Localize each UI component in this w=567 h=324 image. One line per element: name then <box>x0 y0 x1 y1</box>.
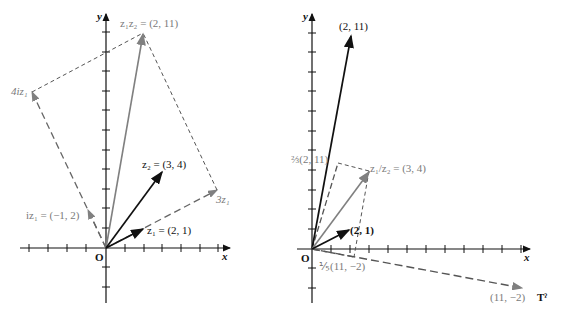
right-2-11-vector <box>312 36 351 249</box>
left-figure: y x O z₁z₂ = (2, 11) 4iz₁ z₂ = (3, 4) 3z… <box>11 10 230 303</box>
left-z1z2-vector <box>106 34 143 248</box>
right-2-11-label: (2, 11) <box>339 20 368 33</box>
right-two-thirds-label: ⅔(2, 11) <box>291 153 329 166</box>
right-quotient-vector <box>312 172 369 249</box>
left-origin-label: O <box>95 251 104 263</box>
left-4iz1-label: 4iz₁ <box>11 85 28 97</box>
left-iz1-label: iz₁ = (−1, 2) <box>26 209 80 222</box>
left-x-label: x <box>221 250 228 262</box>
right-y-label: y <box>301 10 308 22</box>
marginal-mark: Τˀ <box>537 291 547 303</box>
left-z2-vector <box>106 172 162 248</box>
right-origin-label: O <box>301 252 310 264</box>
right-2-1-label: (2, 1) <box>350 224 374 237</box>
right-one-fifth-label: ⅕(11, −2) <box>319 260 365 273</box>
right-conj-label: (11, −2) <box>490 291 525 304</box>
right-parallelogram-right <box>354 171 369 257</box>
diagram-canvas: y x O z₁z₂ = (2, 11) 4iz₁ z₂ = (3, 4) 3z… <box>0 0 567 324</box>
right-x-label: x <box>523 251 530 263</box>
left-3z1-label: 3z₁ <box>215 193 230 205</box>
left-z1z2-label: z₁z₂ = (2, 11) <box>120 17 178 30</box>
left-iz1-vector <box>88 210 106 248</box>
left-parallelogram-top <box>32 33 143 92</box>
left-y-label: y <box>95 10 102 22</box>
left-z1-label: z₁ = (2, 1) <box>147 224 192 237</box>
right-parallelogram-top <box>338 163 369 171</box>
left-z2-label: z₂ = (3, 4) <box>142 158 187 171</box>
right-quotient-label: z₁/z₂ = (3, 4) <box>370 162 426 175</box>
right-figure: y x O (2, 11) ⅔(2, 11) z₁/z₂ = (3, 4) (2… <box>291 10 547 304</box>
